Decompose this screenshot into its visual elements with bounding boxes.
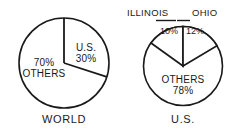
two-pie-chart-figure: U.S. 30% 70% OTHERS WORLD ILLINOIS OHIO … bbox=[0, 0, 233, 138]
us-chart-caption: U.S. bbox=[143, 114, 223, 126]
us-slice-others-label: OTHERS 78% bbox=[153, 75, 213, 97]
us-slice-others-value: 78% bbox=[153, 86, 213, 97]
us-callout-illinois: ILLINOIS bbox=[127, 8, 168, 18]
us-callout-ohio: OHIO bbox=[192, 8, 217, 18]
us-slice-ohio-value: 12% bbox=[184, 27, 206, 37]
world-slice-others-name: OTHERS bbox=[13, 69, 75, 80]
world-slice-others-label: 70% OTHERS bbox=[13, 58, 75, 80]
world-chart-caption: WORLD bbox=[22, 114, 106, 126]
us-slice-illinois-value: 10% bbox=[158, 27, 180, 37]
